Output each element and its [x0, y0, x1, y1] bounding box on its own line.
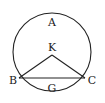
segment-kc	[52, 55, 85, 78]
label-c: C	[88, 74, 96, 87]
segment-kb	[19, 55, 52, 78]
label-g: G	[48, 82, 57, 95]
label-b: B	[9, 74, 17, 87]
geometry-diagram: A K B C G	[0, 0, 105, 103]
label-a: A	[47, 16, 57, 29]
label-k: K	[48, 41, 57, 54]
